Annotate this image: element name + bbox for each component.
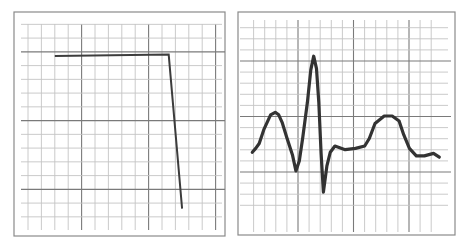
panel-right-ecg-chart [238,12,455,235]
chart-frame [238,12,455,235]
panel-left-step-chart [14,12,225,236]
chart-frame [14,12,225,236]
chart-canvas [0,0,467,244]
